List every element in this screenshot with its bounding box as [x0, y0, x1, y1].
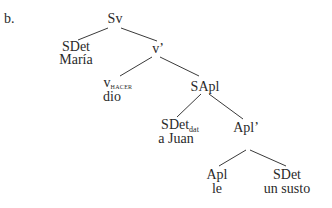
- edge-vbar-sapl: [160, 57, 199, 76]
- edge-sapl-sdetdat: [177, 94, 201, 117]
- edge-vbar-vhead: [120, 57, 152, 76]
- node-sdet-object: SDet: [273, 168, 301, 182]
- edge-aplbar-sdet: [250, 150, 286, 166]
- edge-sv-vbar: [121, 28, 157, 41]
- word-a-juan: a Juan: [158, 132, 193, 146]
- word-maria: María: [59, 53, 92, 67]
- node-v-bar: v’: [152, 42, 164, 56]
- word-un-susto: un susto: [264, 182, 310, 196]
- v-head-label: v: [104, 75, 111, 90]
- node-apl-bar: Apl’: [233, 121, 259, 135]
- node-apl-head: Apl: [207, 168, 228, 182]
- edge-aplbar-apl: [219, 150, 246, 166]
- node-sapl: SApl: [191, 80, 220, 94]
- word-dio: dio: [103, 90, 121, 104]
- edge-sapl-aplbar: [209, 94, 243, 119]
- sdet-dat-label: SDet: [161, 117, 189, 132]
- word-le: le: [212, 182, 222, 196]
- node-sv: Sv: [108, 12, 123, 26]
